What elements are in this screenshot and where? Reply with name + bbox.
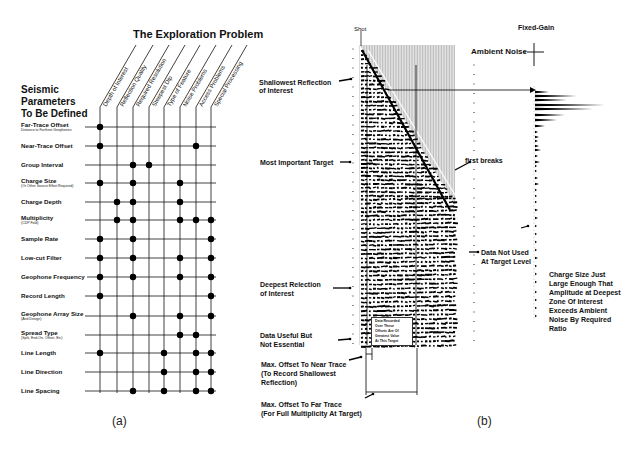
charge-size-line: Charge Size Just (549, 270, 605, 279)
inset-box-line: At This Target (375, 339, 398, 343)
annotation-far-trace-2: (For Full Multiplicity At Target) (261, 409, 362, 418)
inset-box-line: Greatest Value (375, 334, 399, 338)
annotation-near-trace-3: Reflection) (261, 378, 297, 387)
annotation-far-trace-1: Max. Offset To Far Trace (261, 400, 342, 409)
annotation-near-trace-2: (To Record Shallowest (261, 369, 336, 378)
annotation-not-used-1: Data Not Used (481, 248, 529, 257)
annotation-near-trace-1: Max. Offset To Near Trace (261, 360, 346, 369)
annotation-deepest-1: Deepest Relection (260, 280, 321, 289)
inset-box-line: Over These (375, 324, 394, 328)
annotation-not-used-2: At Target Level (481, 257, 531, 266)
annotation-shallowest-2: of Interest (259, 86, 293, 95)
charge-size-line: Noise By Required (549, 315, 611, 324)
seismic-record-graphic (0, 0, 637, 450)
annotation-useful-1: Data Useful But (260, 331, 312, 340)
charge-size-line: Large Enough That (549, 279, 613, 288)
ambient-noise-label: Ambient Noise (471, 48, 527, 56)
first-breaks-label: first breaks (465, 157, 503, 165)
charge-size-line: Zone Of Interest (549, 297, 603, 306)
fixed-gain-label: Fixed-Gain (518, 24, 554, 32)
annotation-useful-2: Not Essential (260, 340, 304, 349)
shot-label: Shot (354, 25, 366, 33)
inset-box-line: Offsets Are Of (375, 329, 399, 333)
charge-size-line: Ratio (549, 324, 567, 333)
inset-box-line: Data Recorded (375, 319, 400, 323)
inset-greatest-value-box: Data RecordedOver TheseOffsets Are OfGre… (371, 317, 413, 346)
caption-b: (b) (477, 414, 492, 428)
annotation-most-important-target: Most Important Target (260, 158, 333, 167)
annotation-deepest-2: of Interest (260, 289, 294, 298)
charge-size-line: Exceeds Ambient (549, 306, 607, 315)
charge-size-line: Amplitude at Deepest (549, 288, 621, 297)
